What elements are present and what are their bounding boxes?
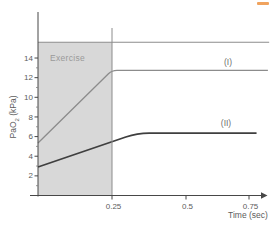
x-axis-arrow-icon [261, 192, 268, 199]
chart-canvas: 24681012140.250.50.75(I)(II) [0, 0, 275, 228]
y-axis-title: PaO2 (kPa) [8, 81, 20, 153]
y-tick-label: 10 [24, 93, 33, 102]
y-tick-label: 12 [24, 73, 33, 82]
y-tick-label: 4 [29, 152, 34, 161]
series-label-curve-I: (I) [224, 57, 232, 67]
series-label-curve-II: (II) [221, 118, 232, 128]
y-tick-label: 2 [29, 171, 34, 180]
y-tick-label: 14 [24, 54, 33, 63]
x-tick-label: 0.5 [182, 202, 194, 211]
pao2-time-figure: 24681012140.250.50.75(I)(II) Exercise Pa… [0, 0, 275, 228]
exercise-shaded-region [38, 42, 112, 195]
x-axis-title: Time (sec) [222, 210, 274, 220]
x-tick-label: 0.25 [106, 202, 122, 211]
exercise-region-label: Exercise [50, 53, 85, 63]
page-corner-mark [257, 2, 269, 5]
y-tick-label: 6 [29, 132, 34, 141]
y-axis-title-post: (kPa) [8, 95, 18, 118]
y-axis-title-sub: 2 [14, 118, 20, 121]
y-tick-label: 8 [29, 113, 34, 122]
y-axis-title-pre: PaO [8, 122, 18, 139]
